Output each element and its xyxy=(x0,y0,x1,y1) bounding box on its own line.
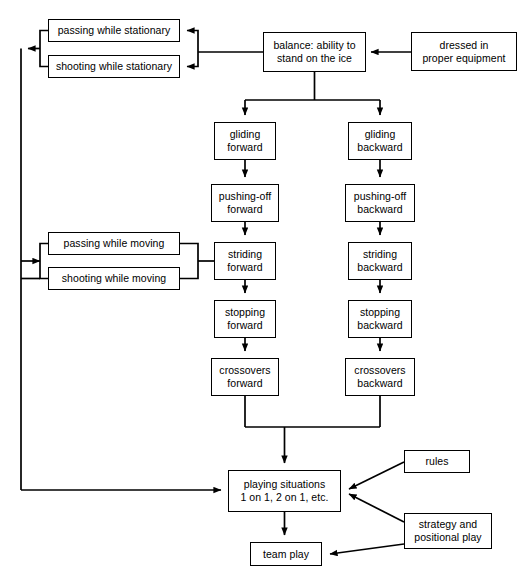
node-stopping-backward[interactable]: stopping backward xyxy=(348,300,412,338)
edge-moving-collector xyxy=(40,244,48,279)
node-balance-stand-on-ice[interactable]: balance: ability to stand on the ice xyxy=(263,32,366,72)
node-playing-situations[interactable]: playing situations 1 on 1, 2 on 1, etc. xyxy=(228,470,341,512)
node-team-play[interactable]: team play xyxy=(250,542,322,566)
edge-strategy-to-team-play xyxy=(330,544,404,554)
node-passing-while-moving[interactable]: passing while moving xyxy=(48,232,180,255)
node-strategy-positional-play[interactable]: strategy and positional play xyxy=(404,513,492,549)
node-gliding-forward[interactable]: gliding forward xyxy=(214,122,276,160)
node-stopping-forward[interactable]: stopping forward xyxy=(214,300,276,338)
node-rules[interactable]: rules xyxy=(404,450,470,473)
edge-strategy-to-playing xyxy=(349,494,404,522)
flowchart-canvas: passing while stationary shooting while … xyxy=(0,0,527,588)
node-dressed-proper-equipment[interactable]: dressed in proper equipment xyxy=(411,32,517,71)
node-shooting-while-stationary[interactable]: shooting while stationary xyxy=(48,55,180,78)
node-crossovers-backward[interactable]: crossovers backward xyxy=(345,358,415,396)
node-shooting-while-moving[interactable]: shooting while moving xyxy=(48,267,180,290)
node-crossovers-forward[interactable]: crossovers forward xyxy=(211,358,279,396)
edge-bus-to-passing-stationary xyxy=(187,31,198,53)
node-passing-while-stationary[interactable]: passing while stationary xyxy=(48,19,180,42)
node-striding-forward[interactable]: striding forward xyxy=(214,242,276,280)
node-pushing-off-backward[interactable]: pushing-off backward xyxy=(345,184,415,222)
edge-bus-to-passing-moving xyxy=(180,244,198,262)
node-pushing-off-forward[interactable]: pushing-off forward xyxy=(211,184,279,222)
edge-bus-to-shooting-moving xyxy=(180,261,198,279)
edge-rules-to-playing xyxy=(349,462,404,489)
edge-bus-to-shooting-stationary xyxy=(187,52,198,67)
node-gliding-backward[interactable]: gliding backward xyxy=(348,122,412,160)
edge-passing-stationary-out xyxy=(40,31,48,67)
node-striding-backward[interactable]: striding backward xyxy=(348,242,412,280)
